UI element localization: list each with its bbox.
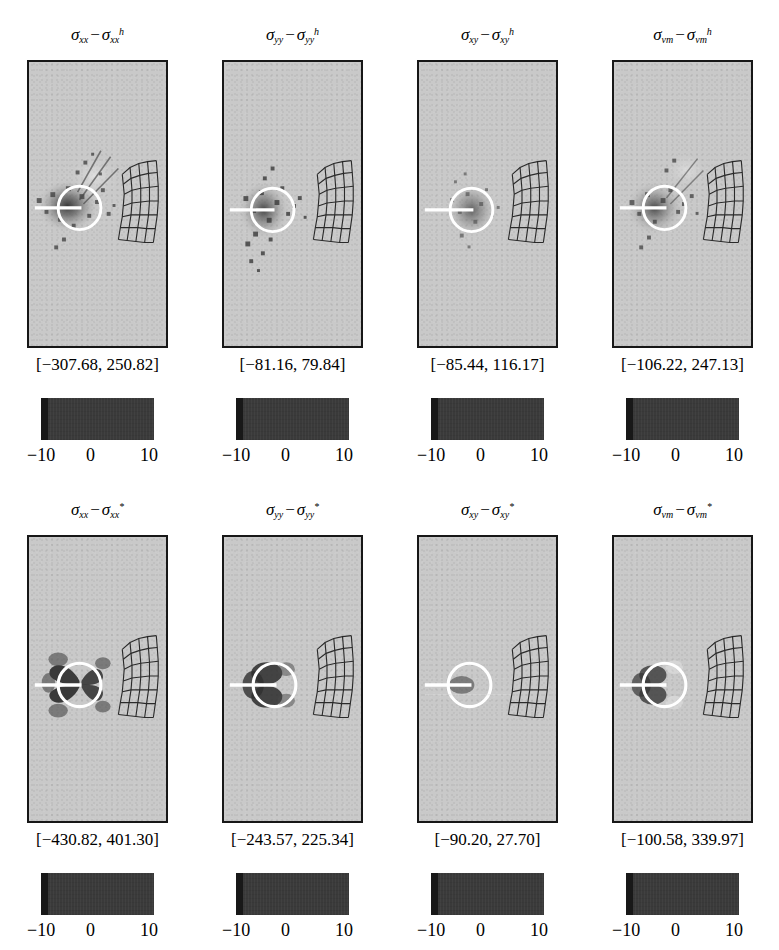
colorbar[interactable]	[41, 398, 154, 440]
colorbar-tick-labels: −10 0 10	[222, 921, 363, 943]
colorbar-tick-mid: 0	[86, 921, 95, 939]
range-label: [−85.44, 116.17]	[390, 356, 585, 373]
sigma-superscript: h	[707, 26, 712, 37]
range-label: [−106.22, 247.13]	[585, 356, 779, 373]
field-artwork	[29, 62, 166, 346]
colorbar-tick-max: 10	[335, 446, 353, 464]
sigma-symbol: σ	[102, 500, 110, 519]
sigma-superscript: h	[314, 26, 319, 37]
range-label: [−90.20, 27.70]	[390, 831, 585, 848]
colorbar-tick-min: −10	[27, 446, 55, 464]
field-plot[interactable]	[222, 60, 363, 348]
sigma-subscript: yy	[305, 34, 314, 45]
colorbar-tick-mid: 0	[476, 446, 485, 464]
colorbar-gradient	[41, 398, 154, 440]
figure-root: σxx−σxxh	[0, 0, 779, 950]
field-artwork	[224, 537, 361, 821]
colorbar-tick-max: 10	[140, 921, 158, 939]
colorbar-low-edge	[626, 398, 633, 440]
colorbar-low-edge	[431, 873, 438, 915]
panel-title: σyy−σyy*	[195, 501, 390, 520]
sigma-symbol: σ	[653, 25, 661, 44]
colorbar-gradient	[236, 873, 349, 915]
minus-sign: −	[673, 500, 687, 519]
field-plot[interactable]	[417, 60, 558, 348]
sigma-subscript: xy	[469, 509, 478, 520]
colorbar-tick-min: −10	[222, 446, 250, 464]
panel-title: σxx−σxx*	[0, 501, 195, 520]
colorbar-tick-labels: −10 0 10	[27, 446, 168, 468]
colorbar[interactable]	[236, 398, 349, 440]
minus-sign: −	[478, 25, 492, 44]
field-artwork	[614, 537, 751, 821]
colorbar[interactable]	[626, 873, 739, 915]
panel-row-top: σxx−σxxh	[0, 0, 779, 475]
colorbar-low-edge	[41, 873, 48, 915]
colorbar-low-edge	[236, 873, 243, 915]
sigma-subscript: vm	[695, 34, 707, 45]
colorbar-tick-max: 10	[140, 446, 158, 464]
panel-title: σvm−σvmh	[585, 26, 779, 45]
colorbar-tick-min: −10	[612, 446, 640, 464]
colorbar[interactable]	[431, 873, 544, 915]
field-plot[interactable]	[612, 535, 753, 823]
range-label: [−307.68, 250.82]	[0, 356, 195, 373]
sigma-superscript: h	[119, 26, 124, 37]
sigma-subscript: yy	[305, 509, 314, 520]
field-plot[interactable]	[612, 60, 753, 348]
panel-sigma-xx-star: σxx−σxx*	[0, 475, 195, 950]
field-artwork	[29, 537, 166, 821]
colorbar-tick-max: 10	[335, 921, 353, 939]
colorbar-tick-mid: 0	[281, 446, 290, 464]
colorbar-tick-min: −10	[612, 921, 640, 939]
minus-sign: −	[88, 25, 102, 44]
sigma-subscript: yy	[274, 509, 283, 520]
panel-row-bottom: σxx−σxx*	[0, 475, 779, 950]
colorbar[interactable]	[626, 398, 739, 440]
panel-sigma-xy-h: σxy−σxyh	[390, 0, 585, 475]
panel-sigma-xy-star: σxy−σxy*	[390, 475, 585, 950]
colorbar-gradient	[236, 398, 349, 440]
minus-sign: −	[283, 500, 297, 519]
colorbar-tick-labels: −10 0 10	[27, 921, 168, 943]
panel-sigma-yy-h: σyy−σyyh	[195, 0, 390, 475]
sigma-symbol: σ	[492, 500, 500, 519]
range-label: [−81.16, 79.84]	[195, 356, 390, 373]
panel-sigma-vm-h: σvm−σvmh	[585, 0, 779, 475]
sigma-symbol: σ	[102, 25, 110, 44]
colorbar-tick-labels: −10 0 10	[612, 921, 753, 943]
panel-sigma-vm-star: σvm−σvm*	[585, 475, 779, 950]
colorbar-tick-mid: 0	[671, 921, 680, 939]
field-plot[interactable]	[222, 535, 363, 823]
minus-sign: −	[88, 500, 102, 519]
sigma-superscript: h	[509, 26, 514, 37]
minus-sign: −	[283, 25, 297, 44]
colorbar-gradient	[41, 873, 154, 915]
colorbar[interactable]	[41, 873, 154, 915]
panel-title: σyy−σyyh	[195, 26, 390, 45]
colorbar-gradient	[431, 873, 544, 915]
sigma-subscript: vm	[695, 509, 707, 520]
sigma-subscript: xx	[110, 509, 119, 520]
colorbar-tick-labels: −10 0 10	[222, 446, 363, 468]
colorbar-low-edge	[236, 398, 243, 440]
sigma-subscript: xx	[79, 34, 88, 45]
sigma-symbol: σ	[297, 25, 305, 44]
sigma-subscript: xx	[79, 509, 88, 520]
sigma-subscript: vm	[662, 509, 674, 520]
colorbar-tick-min: −10	[27, 921, 55, 939]
colorbar-gradient	[431, 398, 544, 440]
colorbar-tick-min: −10	[417, 446, 445, 464]
colorbar[interactable]	[236, 873, 349, 915]
sigma-subscript: xy	[500, 509, 509, 520]
field-plot[interactable]	[27, 60, 168, 348]
sigma-symbol: σ	[653, 500, 661, 519]
field-artwork	[224, 62, 361, 346]
field-plot[interactable]	[417, 535, 558, 823]
field-plot[interactable]	[27, 535, 168, 823]
minus-sign: −	[478, 500, 492, 519]
colorbar[interactable]	[431, 398, 544, 440]
sigma-symbol: σ	[492, 25, 500, 44]
sigma-symbol: σ	[687, 25, 695, 44]
colorbar-tick-mid: 0	[281, 921, 290, 939]
